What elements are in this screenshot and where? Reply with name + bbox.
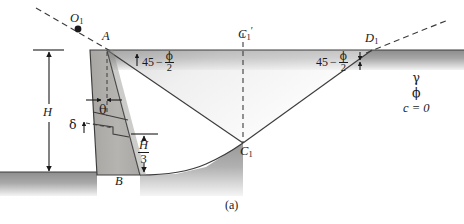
label-wall-friction-angle-delta: δ — [69, 119, 77, 132]
label-cohesion: c = 0 — [403, 101, 429, 116]
label-left-wedge-angle: 45 − ϕ 2 — [142, 51, 174, 73]
label-dimension-H: H — [43, 106, 52, 119]
foreground-surface-band — [0, 172, 97, 196]
label-point-C1-prime: C1′ — [238, 26, 253, 41]
label-point-A: A — [102, 30, 110, 43]
label-point-C1: C1 — [240, 145, 253, 159]
label-unit-weight-gamma: γ — [403, 70, 429, 85]
diagram-canvas — [0, 0, 464, 224]
figure-container: O1 A B C1′ C1 D1 45 − ϕ 2 45 − ϕ 2 θ — [0, 0, 464, 224]
label-point-D1: D1 — [365, 32, 378, 46]
point-marker-O1 — [75, 26, 82, 33]
figure-caption: (a) — [225, 199, 238, 211]
label-point-O1: O1 — [70, 12, 83, 26]
label-point-B: B — [115, 175, 123, 188]
label-wall-batter-angle-theta: θ — [99, 104, 107, 117]
soil-properties-block: γ ϕ c = 0 — [403, 70, 429, 116]
label-dimension-H-over-3: H 3 — [138, 139, 149, 166]
label-right-wedge-angle: 45 − ϕ 2 — [316, 51, 348, 73]
label-friction-angle-phi: ϕ — [403, 85, 429, 100]
